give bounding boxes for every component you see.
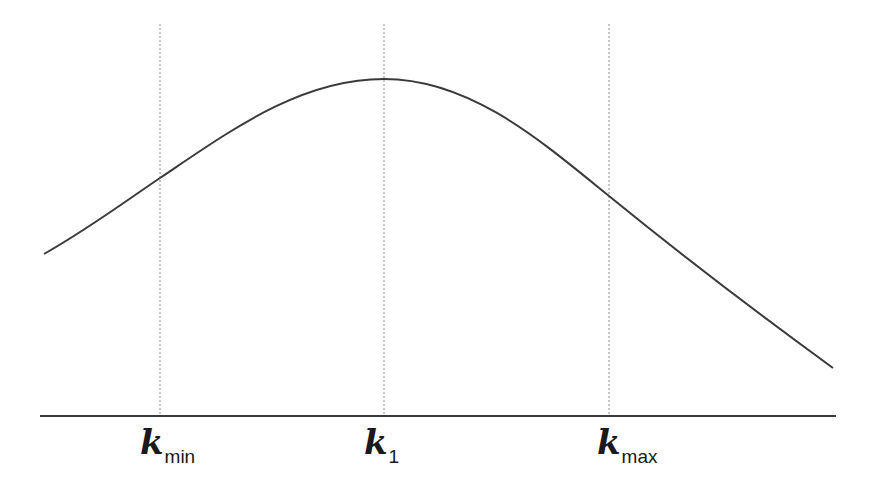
- label-k-1-main: k: [364, 422, 388, 462]
- label-k-min-subscript: min: [165, 446, 196, 467]
- label-k-min-main: k: [140, 422, 164, 462]
- label-k-min: kmin: [140, 422, 195, 462]
- bell-curve: [44, 79, 833, 368]
- label-k-max-subscript: max: [622, 446, 658, 467]
- label-k-1: k1: [364, 422, 399, 462]
- diagram-canvas: [0, 0, 878, 492]
- label-k-max-main: k: [597, 422, 621, 462]
- label-k-max: kmax: [597, 422, 657, 462]
- label-k-1-subscript: 1: [389, 446, 400, 467]
